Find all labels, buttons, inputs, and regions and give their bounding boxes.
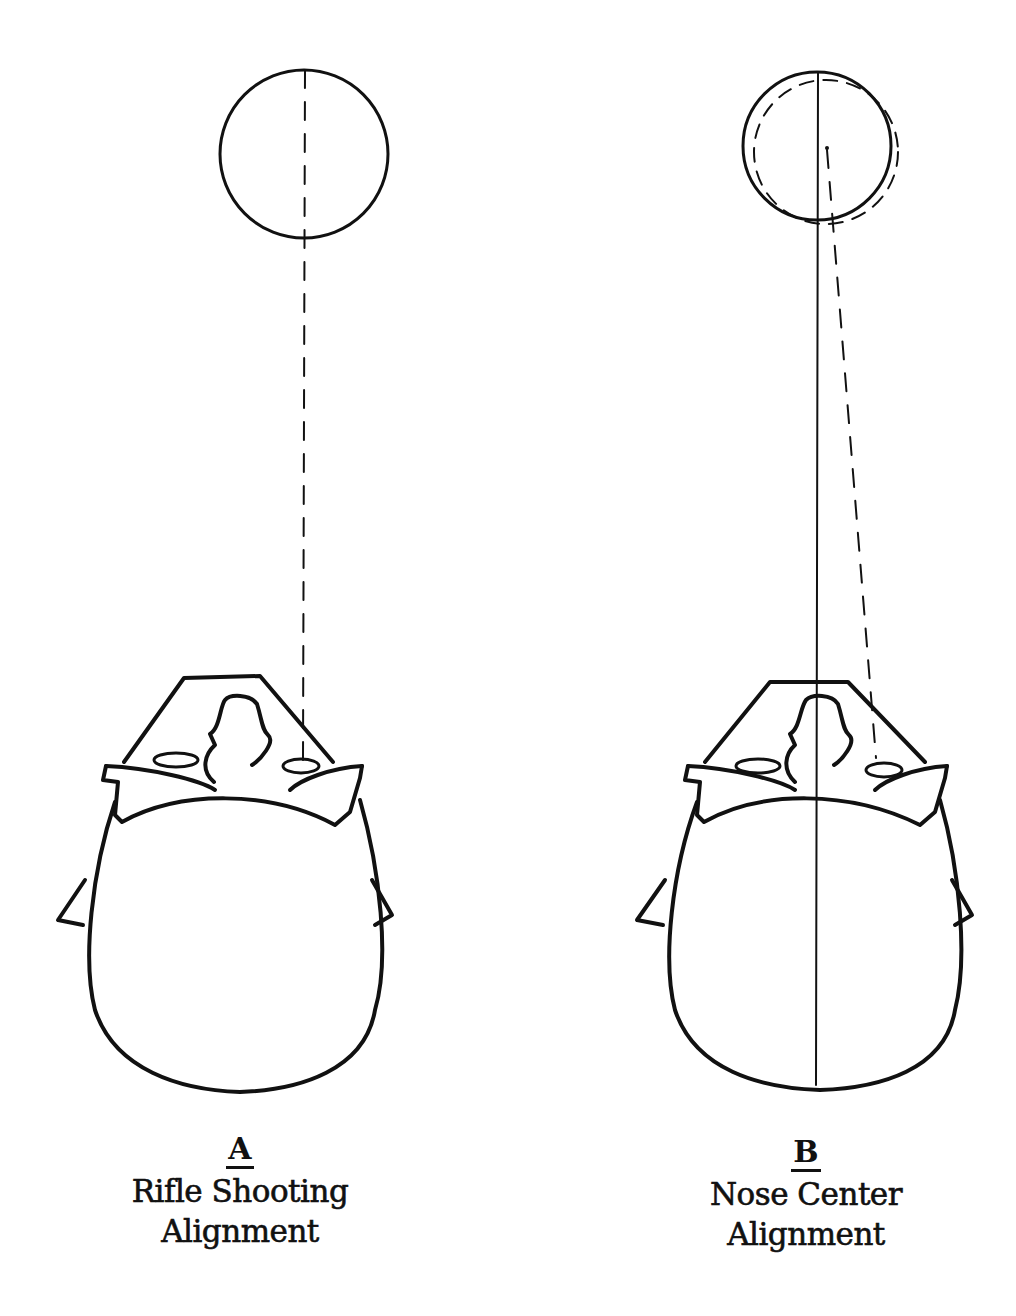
caption-b-line1: Nose Center [656, 1174, 956, 1214]
caption-a: A Rifle Shooting Alignment [90, 1132, 390, 1251]
panel-a [58, 70, 392, 1092]
head-b [637, 682, 972, 1090]
offset-circle-b [754, 80, 898, 224]
panel-b [637, 72, 972, 1090]
panel-letter-a: A [226, 1132, 253, 1169]
caption-a-line2: Alignment [90, 1211, 390, 1251]
head-a [58, 676, 392, 1092]
panel-letter-b: B [791, 1135, 820, 1172]
diagram-canvas [0, 0, 1016, 1316]
sight-line-a [303, 70, 305, 760]
caption-a-line1: Rifle Shooting [90, 1171, 390, 1211]
caption-b-line2: Alignment [656, 1214, 956, 1254]
caption-b: B Nose Center Alignment [656, 1135, 956, 1254]
eye-sight-line-b [827, 150, 876, 758]
